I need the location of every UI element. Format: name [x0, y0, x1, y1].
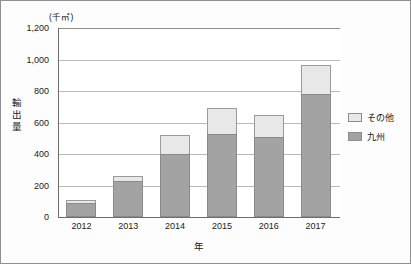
- bar-2017[interactable]: [301, 28, 331, 217]
- legend-item-九州[interactable]: 九州: [348, 130, 394, 143]
- x-tick-label-2014: 2014: [154, 221, 196, 231]
- y-tick-label-600: 600: [3, 118, 49, 128]
- legend-swatch-icon: [348, 132, 362, 141]
- y-tick-label-1200: 1,200: [3, 23, 49, 33]
- bar-2015[interactable]: [207, 28, 237, 217]
- bar-segment-kyushu-2017[interactable]: [301, 94, 331, 217]
- gridline-400: [59, 154, 340, 155]
- bar-segment-other-2014[interactable]: [160, 135, 190, 154]
- bar-segment-kyushu-2016[interactable]: [254, 137, 284, 217]
- legend-label: 九州: [367, 130, 385, 143]
- x-tick-label-2017: 2017: [295, 221, 337, 231]
- gridline-200: [59, 186, 340, 187]
- y-tick-label-800: 800: [3, 86, 49, 96]
- gridline-1200: [59, 28, 340, 29]
- bar-2014[interactable]: [160, 28, 190, 217]
- y-tick-label-0: 0: [3, 212, 49, 222]
- x-tick-label-2015: 2015: [201, 221, 243, 231]
- x-tick-label-2012: 2012: [60, 221, 102, 231]
- x-axis-title: 年: [58, 239, 339, 253]
- y-axis-unit-label: (千㎡): [49, 10, 73, 22]
- bar-segment-kyushu-2013[interactable]: [113, 181, 143, 217]
- bar-segment-kyushu-2012[interactable]: [66, 203, 96, 217]
- x-axis-tick-labels: 201220132014201520162017: [58, 221, 339, 231]
- bar-2012[interactable]: [66, 28, 96, 217]
- plot-area: [58, 28, 340, 218]
- y-tick-label-400: 400: [3, 149, 49, 159]
- bar-segment-other-2016[interactable]: [254, 115, 284, 137]
- x-tick-label-2013: 2013: [107, 221, 149, 231]
- gridline-600: [59, 123, 340, 124]
- y-axis-title-char-1: 輸: [10, 97, 24, 109]
- legend-label: その他: [367, 111, 394, 124]
- bar-segment-other-2015[interactable]: [207, 108, 237, 133]
- y-axis-title: 輸 出 量: [10, 97, 24, 133]
- x-tick-label-2016: 2016: [248, 221, 290, 231]
- bar-segment-other-2017[interactable]: [301, 65, 331, 94]
- gridline-800: [59, 91, 340, 92]
- bar-segment-kyushu-2014[interactable]: [160, 154, 190, 217]
- chart-figure: (千㎡) 輸 出 量 1,2001,0008006004002000 20122…: [0, 0, 411, 264]
- legend-swatch-icon: [348, 113, 362, 122]
- legend-item-その他[interactable]: その他: [348, 111, 394, 124]
- y-tick-label-1000: 1,000: [3, 55, 49, 65]
- bar-2013[interactable]: [113, 28, 143, 217]
- bar-2016[interactable]: [254, 28, 284, 217]
- y-tick-label-200: 200: [3, 181, 49, 191]
- chart-legend: その他九州: [348, 111, 394, 143]
- bar-segment-kyushu-2015[interactable]: [207, 134, 237, 217]
- gridline-1000: [59, 60, 340, 61]
